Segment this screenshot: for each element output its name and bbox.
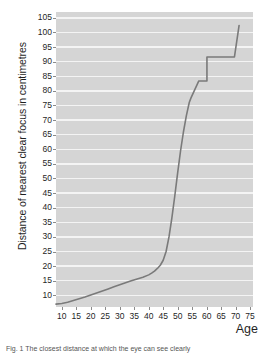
y-tick-label: 30 [30, 232, 52, 241]
y-tick-mark [53, 76, 56, 77]
y-tick-mark [53, 91, 56, 92]
x-tick-mark [134, 307, 135, 310]
y-tick-mark [53, 149, 56, 150]
y-tick-mark [53, 62, 56, 63]
x-tick-mark [221, 307, 222, 310]
y-tick-mark [53, 266, 56, 267]
x-axis-tick-labels: 1015202530354045505560657075 [56, 311, 253, 323]
x-tick-mark [76, 307, 77, 310]
x-tick-mark [91, 307, 92, 310]
y-tick-label: 35 [30, 218, 52, 227]
y-tick-mark [53, 135, 56, 136]
y-tick-mark [53, 281, 56, 282]
y-tick-label: 25 [30, 247, 52, 256]
x-tick-mark [163, 307, 164, 310]
y-tick-label: 45 [30, 189, 52, 198]
y-tick-label: 15 [30, 276, 52, 285]
x-tick-mark [62, 307, 63, 310]
y-tick-mark [53, 47, 56, 48]
y-tick-label: 85 [30, 72, 52, 81]
y-tick-label: 55 [30, 159, 52, 168]
x-tick-label: 75 [240, 311, 260, 321]
y-tick-label: 100 [30, 28, 52, 37]
y-tick-label: 75 [30, 101, 52, 110]
y-tick-mark [53, 32, 56, 33]
figure-caption: Fig. 1 The closest distance at which the… [6, 345, 258, 354]
y-tick-label: 95 [30, 43, 52, 52]
y-tick-mark [53, 178, 56, 179]
x-tick-mark [207, 307, 208, 310]
y-tick-mark [53, 295, 56, 296]
y-tick-mark [53, 164, 56, 165]
data-line-series [56, 12, 253, 307]
y-tick-label: 105 [30, 13, 52, 22]
y-tick-mark [53, 105, 56, 106]
y-tick-label: 90 [30, 57, 52, 66]
x-tick-mark [236, 307, 237, 310]
y-tick-label: 60 [30, 145, 52, 154]
y-tick-mark [53, 252, 56, 253]
y-tick-label: 10 [30, 291, 52, 300]
x-tick-mark [120, 307, 121, 310]
y-tick-mark [53, 193, 56, 194]
presbyopia-chart-figure: Distance of nearest clear focus in centi… [0, 0, 264, 354]
y-tick-mark [53, 18, 56, 19]
y-tick-label: 50 [30, 174, 52, 183]
y-tick-mark [53, 222, 56, 223]
x-axis-title: Age [236, 322, 258, 336]
plot-area [56, 12, 253, 307]
x-tick-mark [149, 307, 150, 310]
y-tick-label: 20 [30, 262, 52, 271]
y-tick-label: 40 [30, 203, 52, 212]
y-tick-label: 70 [30, 116, 52, 125]
y-axis-tick-labels: 1015202530354045505560657075808590951001… [28, 12, 52, 307]
y-axis-title: Distance of nearest clear focus in centi… [16, 6, 28, 286]
y-tick-label: 65 [30, 130, 52, 139]
y-tick-mark [53, 208, 56, 209]
x-tick-mark [192, 307, 193, 310]
y-tick-mark [53, 120, 56, 121]
x-tick-mark [250, 307, 251, 310]
x-tick-mark [105, 307, 106, 310]
x-tick-mark [178, 307, 179, 310]
y-tick-label: 80 [30, 86, 52, 95]
y-tick-mark [53, 237, 56, 238]
